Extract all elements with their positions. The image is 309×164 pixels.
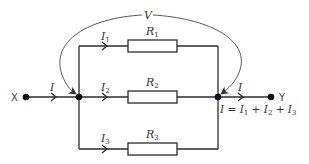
terminal-x-label: X xyxy=(11,92,18,103)
terminal-y-label: Y xyxy=(278,92,286,103)
current-i1-label: I1 xyxy=(100,30,110,44)
right-junction-node xyxy=(215,94,222,101)
current-i2-label: I2 xyxy=(100,81,110,95)
current-out-label: I xyxy=(237,81,243,94)
resistor-r2-label: R2 xyxy=(145,76,159,90)
resistor-r3-label: R3 xyxy=(145,128,159,142)
terminal-x-node[interactable] xyxy=(23,94,30,101)
circuit-diagram: X Y V I I I1 I2 I3 R1 R2 R3 I = I1 + I2 … xyxy=(0,0,309,164)
current-main-label: I xyxy=(49,81,55,94)
voltage-arc-right xyxy=(153,15,241,94)
resistor-r2 xyxy=(128,91,177,103)
resistor-r1-label: R1 xyxy=(145,25,159,39)
current-sum-equation: I = I1 + I2 + I3 xyxy=(219,103,296,117)
resistor-r3 xyxy=(128,143,177,155)
resistor-r1 xyxy=(128,40,177,52)
left-junction-node xyxy=(76,94,83,101)
voltage-label: V xyxy=(144,9,153,22)
terminal-y-node[interactable] xyxy=(268,94,275,101)
current-i3-label: I3 xyxy=(100,132,110,146)
